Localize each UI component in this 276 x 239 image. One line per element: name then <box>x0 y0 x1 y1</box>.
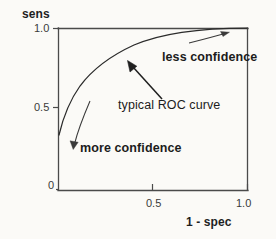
x-axis-title: 1 - spec <box>186 216 232 228</box>
annotation-less-confidence: less confidence <box>162 51 257 64</box>
y-axis-title: sens <box>22 8 50 20</box>
less-confidence-arrow <box>189 32 230 44</box>
typical-roc-curve-arrow <box>128 61 163 100</box>
roc-curve-path <box>59 28 247 135</box>
plot-canvas <box>0 0 276 239</box>
x-tick-label-0.5: 0.5 <box>146 198 161 209</box>
y-tick-label-1.0: 1.0 <box>34 23 49 34</box>
roc-curve-figure: sens 1.0 0.5 0 0.5 1.0 1 - spec less con… <box>0 0 276 239</box>
y-tick-label-0.5: 0.5 <box>34 102 49 113</box>
annotation-typical-roc-curve: typical ROC curve <box>118 99 220 112</box>
x-tick-label-1.0: 1.0 <box>236 198 251 209</box>
y-tick-label-0: 0 <box>48 180 54 191</box>
annotation-more-confidence: more confidence <box>80 142 182 155</box>
